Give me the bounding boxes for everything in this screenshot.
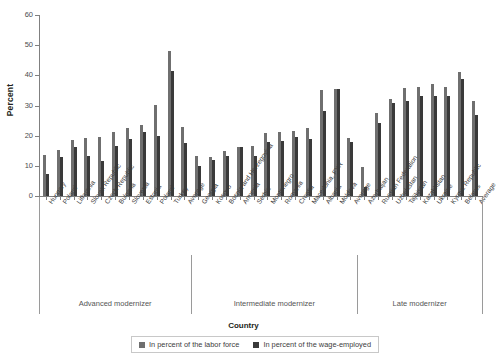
bar-group — [136, 15, 150, 196]
x-axis-title: Country — [0, 321, 487, 330]
bar-group — [164, 15, 178, 196]
plot-area: 0102030405060 — [39, 15, 482, 196]
bar — [171, 71, 174, 196]
category-group-label: Intermediate modernizer — [191, 299, 357, 308]
y-axis-tick-label: 20 — [25, 131, 33, 140]
x-axis-tick-mark — [184, 196, 185, 200]
x-axis-tick-mark — [364, 196, 365, 200]
bar-group — [385, 15, 399, 196]
x-axis-tick-mark — [461, 196, 462, 200]
bar-group — [150, 15, 164, 196]
bar-group — [191, 15, 205, 196]
category-group-separator — [357, 255, 358, 314]
bar — [337, 89, 340, 196]
y-axis-tick-label: 60 — [25, 10, 33, 19]
x-axis-tick-mark — [171, 196, 172, 200]
category-group-separator — [482, 197, 483, 314]
legend-label: In percent of the wage-employed — [263, 340, 371, 349]
y-axis-tick-label: 10 — [25, 161, 33, 170]
bar-group — [67, 15, 81, 196]
x-axis-tick-mark — [378, 196, 379, 200]
bar-group — [205, 15, 219, 196]
x-axis-tick-mark — [87, 196, 88, 200]
bar-group — [413, 15, 427, 196]
x-axis-tick-mark — [198, 196, 199, 200]
bar-series-container — [39, 15, 482, 196]
x-axis-tick-mark — [101, 196, 102, 200]
chart-legend: In percent of the labor force In percent… — [131, 336, 379, 353]
bar-group — [53, 15, 67, 196]
bar-group — [371, 15, 385, 196]
y-axis-title-text: Percent — [5, 84, 15, 117]
legend-label: In percent of the labor force — [149, 340, 239, 349]
x-axis-tick-mark — [295, 196, 296, 200]
y-axis-tick-label: 0 — [29, 191, 33, 200]
x-axis-tick-mark — [447, 196, 448, 200]
bar-group — [219, 15, 233, 196]
bar-group — [344, 15, 358, 196]
x-axis-tick-mark — [267, 196, 268, 200]
bar-group — [288, 15, 302, 196]
bar-group — [233, 15, 247, 196]
bar-group — [427, 15, 441, 196]
bar-group — [357, 15, 371, 196]
y-axis-tick-label: 50 — [25, 40, 33, 49]
category-group-label: Late modernizer — [357, 299, 482, 308]
y-axis-title: Percent — [2, 0, 18, 200]
legend-item: In percent of the wage-employed — [253, 340, 371, 349]
category-group-separator — [39, 197, 40, 314]
x-axis-tick-mark — [475, 196, 476, 200]
x-axis-tick-mark — [434, 196, 435, 200]
y-axis-tick-label: 40 — [25, 70, 33, 79]
y-axis-tick-label: 30 — [25, 101, 33, 110]
category-group-label: Advanced modernizer — [39, 299, 191, 308]
bar-group — [274, 15, 288, 196]
bar-group — [177, 15, 191, 196]
x-axis-title-text: Country — [228, 321, 259, 330]
legend-swatch-labor-force-icon — [139, 342, 145, 348]
legend-swatch-wage-employed-icon — [253, 342, 259, 348]
legend-item: In percent of the labor force — [139, 340, 239, 349]
x-axis-tick-mark — [350, 196, 351, 200]
category-group-separator — [191, 255, 192, 314]
bar-group — [261, 15, 275, 196]
bar-group — [94, 15, 108, 196]
bar-group — [39, 15, 53, 196]
x-axis-tick-mark — [115, 196, 116, 200]
x-axis-tick-mark — [281, 196, 282, 200]
bar-group — [81, 15, 95, 196]
x-axis-tick-mark — [212, 196, 213, 200]
bar-group — [454, 15, 468, 196]
bar-group — [440, 15, 454, 196]
bar — [46, 174, 49, 196]
bar-group — [302, 15, 316, 196]
x-axis-tick-mark — [254, 196, 255, 200]
x-axis-tick-mark — [392, 196, 393, 200]
bar-group — [316, 15, 330, 196]
